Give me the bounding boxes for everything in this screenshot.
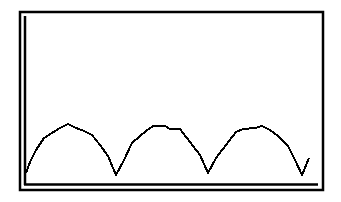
outer-frame bbox=[20, 12, 323, 190]
waveform-line bbox=[26, 124, 309, 175]
chart bbox=[0, 0, 341, 202]
